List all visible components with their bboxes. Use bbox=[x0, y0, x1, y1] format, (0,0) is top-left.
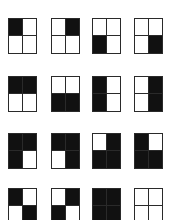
pattern-left-half bbox=[92, 76, 121, 112]
quadrant-bl-empty bbox=[9, 206, 23, 220]
quadrant-bl-filled bbox=[52, 206, 66, 220]
quadrant-tr-empty bbox=[107, 19, 121, 36]
pattern-top-left bbox=[8, 18, 37, 54]
quadrant-tl-filled bbox=[9, 77, 23, 94]
quadrant-bl-filled bbox=[52, 94, 66, 111]
pattern-all-but-top-left bbox=[92, 133, 121, 169]
pattern-anti-diagonal bbox=[51, 188, 80, 220]
quadrant-bl-filled bbox=[93, 94, 107, 111]
quadrant-tr-filled bbox=[66, 189, 80, 206]
pattern-all-but-bottom-left bbox=[51, 133, 80, 169]
quadrant-bl-filled bbox=[135, 151, 149, 168]
quadrant-tr-empty bbox=[149, 189, 163, 206]
quadrant-br-empty bbox=[107, 94, 121, 111]
quadrant-tl-empty bbox=[52, 77, 66, 94]
pattern-bottom-right bbox=[134, 18, 163, 54]
quadrant-tr-filled bbox=[23, 77, 37, 94]
quadrant-br-empty bbox=[66, 206, 80, 220]
quadrant-bl-empty bbox=[52, 151, 66, 168]
quadrant-tr-empty bbox=[23, 19, 37, 36]
pattern-all-but-bottom-right bbox=[8, 133, 37, 169]
quadrant-br-empty bbox=[107, 36, 121, 53]
quadrant-tl-empty bbox=[135, 77, 149, 94]
quadrant-tl-filled bbox=[135, 134, 149, 151]
quadrant-br-filled bbox=[23, 206, 37, 220]
pattern-all-filled bbox=[92, 188, 121, 220]
quadrant-tr-empty bbox=[149, 19, 163, 36]
quadrant-bl-filled bbox=[93, 206, 107, 220]
quadrant-bl-empty bbox=[52, 36, 66, 53]
pattern-bottom-half bbox=[51, 76, 80, 112]
quadrant-tr-filled bbox=[23, 134, 37, 151]
quadrant-br-empty bbox=[23, 94, 37, 111]
quadrant-tr-empty bbox=[107, 77, 121, 94]
quadrant-br-empty bbox=[23, 36, 37, 53]
quadrant-bl-empty bbox=[135, 36, 149, 53]
quadrant-tr-filled bbox=[107, 189, 121, 206]
quadrant-bl-filled bbox=[93, 36, 107, 53]
pattern-bottom-left bbox=[92, 18, 121, 54]
quadrant-br-filled bbox=[66, 94, 80, 111]
quadrant-bl-empty bbox=[9, 36, 23, 53]
quadrant-bl-filled bbox=[93, 151, 107, 168]
quadrant-br-filled bbox=[107, 206, 121, 220]
quadrant-tl-filled bbox=[9, 19, 23, 36]
quadrant-br-filled bbox=[149, 36, 163, 53]
quadrant-br-empty bbox=[23, 151, 37, 168]
quadrant-tr-filled bbox=[66, 134, 80, 151]
quadrant-tl-filled bbox=[9, 189, 23, 206]
quadrant-tr-filled bbox=[66, 19, 80, 36]
quadrant-bl-empty bbox=[135, 94, 149, 111]
quadrant-tl-empty bbox=[52, 189, 66, 206]
quadrant-tr-filled bbox=[149, 77, 163, 94]
quadrant-br-filled bbox=[107, 151, 121, 168]
quadrant-br-filled bbox=[149, 151, 163, 168]
quadrant-tr-empty bbox=[23, 189, 37, 206]
pattern-main-diagonal bbox=[8, 188, 37, 220]
pattern-top-half bbox=[8, 76, 37, 112]
quadrant-tr-filled bbox=[107, 134, 121, 151]
pattern-all-but-top-right bbox=[134, 133, 163, 169]
quadrant-tl-filled bbox=[93, 189, 107, 206]
pattern-none-filled bbox=[134, 188, 163, 220]
quadrant-bl-empty bbox=[9, 94, 23, 111]
quadrant-tl-empty bbox=[135, 189, 149, 206]
quadrant-tl-empty bbox=[93, 19, 107, 36]
quadrant-br-empty bbox=[66, 36, 80, 53]
quadrant-br-filled bbox=[149, 94, 163, 111]
quadrant-br-filled bbox=[66, 151, 80, 168]
quadrant-tl-empty bbox=[135, 19, 149, 36]
quadrant-tl-empty bbox=[93, 134, 107, 151]
quadrant-br-empty bbox=[149, 206, 163, 220]
pattern-top-right bbox=[51, 18, 80, 54]
quadrant-tr-empty bbox=[149, 134, 163, 151]
quadrant-tl-filled bbox=[93, 77, 107, 94]
quadrant-tl-filled bbox=[9, 134, 23, 151]
pattern-right-half bbox=[134, 76, 163, 112]
quadrant-tl-filled bbox=[52, 134, 66, 151]
quadrant-bl-filled bbox=[9, 151, 23, 168]
quadrant-tr-empty bbox=[66, 77, 80, 94]
quadrant-bl-empty bbox=[135, 206, 149, 220]
quadrant-tl-empty bbox=[52, 19, 66, 36]
